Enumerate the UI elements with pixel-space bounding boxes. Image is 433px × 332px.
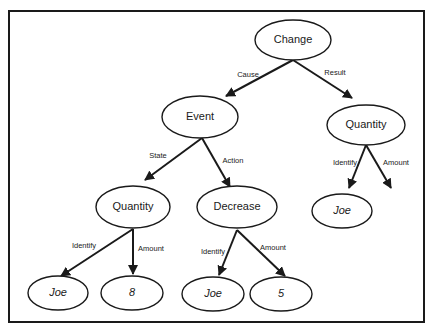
node-label-change: Change xyxy=(274,33,313,45)
node-eight: 8 xyxy=(101,276,163,310)
edge-cause xyxy=(226,60,293,96)
node-label-joe-result: Joe xyxy=(332,204,351,216)
edge-label-identify-state: Identify xyxy=(72,241,96,250)
edge-label-action: Action xyxy=(223,156,244,165)
edge-label-amount-result: Amount xyxy=(383,158,410,167)
node-label-quantity-result: Quantity xyxy=(346,118,387,130)
edge-label-amount-action: Amount xyxy=(260,243,287,252)
node-five: 5 xyxy=(250,277,312,311)
node-label-event: Event xyxy=(186,110,214,122)
node-label-joe-action: Joe xyxy=(203,287,222,299)
node-event: Event xyxy=(162,96,238,138)
node-label-five: 5 xyxy=(278,287,285,299)
node-change: Change xyxy=(255,20,331,60)
node-quantity-state: Quantity xyxy=(96,186,170,228)
node-label-eight: 8 xyxy=(129,286,136,298)
edge-label-identify-action: Identify xyxy=(201,247,225,256)
diagram-frame xyxy=(9,11,424,322)
node-joe-result: Joe xyxy=(312,194,372,228)
node-label-joe-state: Joe xyxy=(48,286,67,298)
edge-label-state: State xyxy=(149,151,167,160)
edge-identify-state xyxy=(61,229,133,276)
node-label-decrease: Decrease xyxy=(213,200,260,212)
node-joe-state: Joe xyxy=(28,276,88,310)
edge-label-amount-state: Amount xyxy=(138,244,165,253)
node-quantity-result: Quantity xyxy=(327,105,405,145)
diagram-canvas: Cause Result State Action Identify Amoun… xyxy=(0,0,433,332)
edge-label-identify-result: Identify xyxy=(333,158,357,167)
edge-amount-action xyxy=(237,230,285,276)
edge-label-result: Result xyxy=(324,68,346,77)
edges xyxy=(61,60,391,276)
node-decrease: Decrease xyxy=(197,186,277,228)
node-label-quantity-state: Quantity xyxy=(113,200,154,212)
node-joe-action: Joe xyxy=(182,277,244,311)
edge-result xyxy=(293,60,352,98)
edge-label-cause: Cause xyxy=(237,70,259,79)
